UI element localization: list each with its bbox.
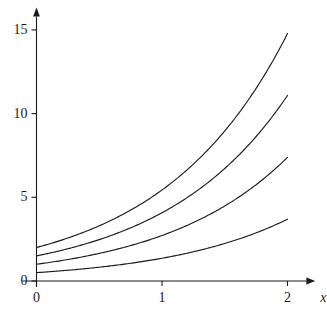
x-tick-label: 0 (17, 291, 57, 305)
curve-1 (37, 34, 288, 248)
x-tick-label: 2 (268, 291, 308, 305)
y-tick-label: 10 (14, 107, 28, 121)
y-tick-label: 15 (14, 23, 28, 37)
x-axis-arrow-icon (306, 278, 315, 285)
curve-4 (37, 219, 288, 272)
y-axis-arrow-icon (33, 8, 40, 17)
chart-figure: 051015012 x (0, 0, 327, 321)
curves-group (37, 34, 288, 273)
y-tick-label: 5 (21, 190, 28, 204)
curve-2 (37, 95, 288, 255)
curve-3 (37, 157, 288, 264)
x-tick-label: 1 (142, 291, 182, 305)
x-axis-label: x (320, 291, 326, 305)
y-tick-label: 0 (21, 274, 28, 288)
axis-ticks-group (32, 30, 288, 286)
plot-canvas (0, 0, 327, 321)
axes-group (23, 8, 316, 287)
